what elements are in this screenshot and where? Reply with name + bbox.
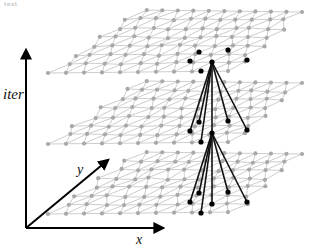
mesh-node <box>178 43 182 47</box>
mesh-node <box>155 133 159 137</box>
mesh-node <box>113 34 117 38</box>
mesh-node <box>248 97 252 101</box>
mesh-node <box>265 97 269 101</box>
mesh-node <box>265 160 269 164</box>
mesh-node <box>111 116 115 120</box>
mesh-node <box>216 98 220 102</box>
mesh-node <box>217 169 221 173</box>
mesh-node <box>233 18 237 22</box>
mesh-node <box>133 96 137 100</box>
mesh-node <box>179 115 183 119</box>
mesh-node <box>266 27 270 31</box>
mesh-node <box>99 105 103 109</box>
active-node <box>198 68 203 73</box>
mesh-node <box>154 16 158 20</box>
active-node <box>244 127 249 132</box>
mesh-node <box>68 62 72 66</box>
mesh-node <box>225 131 229 135</box>
mesh-node <box>155 88 159 92</box>
mesh-node <box>182 167 186 171</box>
mesh-node <box>133 177 137 181</box>
mesh-node <box>118 27 122 31</box>
mesh-node <box>173 88 177 92</box>
mesh-node <box>88 53 92 57</box>
mesh-node <box>174 60 178 64</box>
mesh-node <box>89 124 93 128</box>
mesh-node <box>198 35 202 39</box>
mesh-node <box>226 69 230 73</box>
mesh-node <box>190 140 194 144</box>
mesh-node <box>282 160 286 164</box>
mesh-node <box>145 8 149 12</box>
mesh-node <box>159 123 163 127</box>
mesh-node <box>105 193 109 197</box>
mesh-node <box>236 160 240 164</box>
mesh-node <box>92 45 96 49</box>
mesh-node <box>265 90 269 94</box>
mesh-node <box>284 152 288 156</box>
mesh-node <box>253 151 257 155</box>
mesh-node <box>160 79 164 83</box>
mesh-node <box>136 211 140 215</box>
faint-caption-text: text <box>4 0 18 7</box>
layer-bottom <box>46 150 304 216</box>
mesh-node <box>98 35 102 39</box>
mesh-node <box>142 195 146 199</box>
mesh-node <box>151 97 155 101</box>
mesh-node <box>175 52 179 56</box>
mesh-node <box>250 18 254 22</box>
mesh-node <box>158 195 162 199</box>
mesh-node <box>160 8 164 12</box>
mesh-node <box>118 211 122 215</box>
active-node <box>187 199 192 204</box>
mesh-node <box>193 124 197 128</box>
mesh-node <box>110 184 114 188</box>
mesh-node <box>213 44 217 48</box>
mesh-node <box>208 210 212 214</box>
mesh-node <box>228 124 232 128</box>
mesh-node <box>121 97 125 101</box>
mesh-node <box>90 194 94 198</box>
mesh-node <box>127 114 131 118</box>
mesh-node <box>160 185 164 189</box>
active-node <box>209 59 214 64</box>
mesh-node <box>230 35 234 39</box>
mesh-node <box>225 202 229 206</box>
mesh-node <box>215 27 219 31</box>
mesh-node <box>263 114 267 118</box>
mesh-node <box>238 9 242 13</box>
mesh-node <box>203 17 207 21</box>
mesh-node <box>84 61 88 65</box>
mesh-node <box>154 211 158 215</box>
mesh-node <box>282 28 286 32</box>
mesh-node <box>154 70 158 74</box>
mesh-node <box>263 106 267 110</box>
mesh-node <box>186 89 190 93</box>
mesh-node <box>264 168 268 172</box>
mesh-node <box>176 202 180 206</box>
multilayer-mesh-diagram <box>0 0 312 245</box>
active-node <box>244 199 249 204</box>
mesh-node <box>265 36 269 40</box>
mesh-node <box>253 80 257 84</box>
mesh-node <box>238 80 242 84</box>
mesh-node <box>100 70 104 74</box>
mesh-node <box>190 210 194 214</box>
mesh-node <box>269 81 273 85</box>
active-node <box>225 118 230 123</box>
mesh-node <box>145 150 149 154</box>
mesh-node <box>280 168 284 172</box>
mesh-node <box>119 167 123 171</box>
mesh-node <box>166 168 170 172</box>
mesh-node <box>94 116 98 120</box>
mesh-node <box>74 54 78 58</box>
mesh-node <box>139 160 143 164</box>
mesh-node <box>132 34 136 38</box>
mesh-node <box>172 18 176 22</box>
active-node <box>187 58 192 63</box>
mesh-node <box>154 141 158 145</box>
mesh-node <box>201 26 205 30</box>
layer-middle <box>46 79 304 146</box>
mesh-node <box>178 185 182 189</box>
mesh-node <box>283 90 287 94</box>
